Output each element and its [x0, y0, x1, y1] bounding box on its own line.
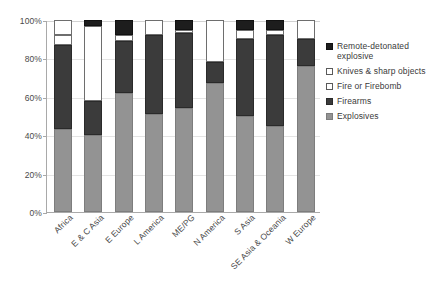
bar-segment[interactable]: [54, 129, 72, 212]
legend-item[interactable]: Remote-detonated explosive: [326, 41, 442, 61]
bar-segment[interactable]: [84, 101, 102, 136]
bar-segment[interactable]: [266, 30, 284, 36]
stacked-bar[interactable]: [54, 21, 72, 212]
legend-swatch-icon: [326, 43, 333, 50]
stacked-bar[interactable]: [84, 21, 102, 212]
legend-item[interactable]: Knives & sharp objects: [326, 66, 442, 76]
stacked-bar[interactable]: [236, 21, 254, 212]
bar-segment[interactable]: [175, 20, 193, 30]
legend-swatch-icon: [326, 113, 333, 120]
bar-segment[interactable]: [206, 62, 224, 83]
bar-segment[interactable]: [236, 39, 254, 116]
y-axis-tick-label: 80%: [25, 54, 42, 64]
bar-segment[interactable]: [54, 20, 72, 35]
legend-swatch-icon: [326, 83, 333, 90]
y-axis-tick-label: 60%: [25, 93, 42, 103]
bar-segment[interactable]: [145, 20, 163, 35]
bar-segment[interactable]: [266, 20, 284, 30]
bar-segment[interactable]: [266, 126, 284, 212]
bar-segment[interactable]: [115, 35, 133, 41]
bar-segment[interactable]: [236, 20, 254, 30]
y-axis-tick-label: 100%: [20, 16, 42, 26]
bars-layer: [48, 21, 320, 212]
bar-slot: [48, 21, 78, 212]
bar-slot: [139, 21, 169, 212]
bar-segment[interactable]: [115, 20, 133, 35]
legend-swatch-icon: [326, 98, 333, 105]
bar-slot: [260, 21, 290, 212]
bar-slot: [230, 21, 260, 212]
bar-segment[interactable]: [54, 45, 72, 129]
stacked-bar[interactable]: [115, 21, 133, 212]
legend-item[interactable]: Firearms: [326, 96, 442, 106]
bar-segment[interactable]: [175, 30, 193, 34]
bar-segment[interactable]: [84, 135, 102, 212]
bar-segment[interactable]: [54, 35, 72, 45]
legend-item-label: Firearms: [337, 96, 371, 106]
y-axis-tick-label: 0%: [30, 208, 43, 218]
stacked-bar[interactable]: [266, 21, 284, 212]
stacked-bar[interactable]: [206, 21, 224, 212]
bar-segment[interactable]: [297, 20, 315, 39]
bar-segment[interactable]: [266, 35, 284, 125]
y-axis-tick: [43, 98, 47, 99]
chart-legend: Remote-detonated explosiveKnives & sharp…: [326, 41, 442, 126]
x-axis-label-text: ME/PG: [169, 212, 196, 239]
y-axis-tick: [43, 21, 47, 22]
legend-item-label: Explosives: [337, 111, 379, 121]
plot-area: 0%20%40%60%80%100%: [46, 21, 320, 213]
y-axis-tick-label: 20%: [25, 170, 42, 180]
legend-swatch-icon: [326, 68, 333, 75]
bar-segment[interactable]: [84, 20, 102, 26]
legend-item-label: Fire or Firebomb: [337, 81, 401, 91]
stacked-bar-chart: 0%20%40%60%80%100% AfricaE & C AsiaE Eur…: [0, 0, 444, 301]
stacked-bar[interactable]: [145, 21, 163, 212]
bar-slot: [200, 21, 230, 212]
bar-segment[interactable]: [236, 30, 254, 40]
x-axis-labels: AfricaE & C AsiaE EuropeL AmericaME/PGN …: [46, 214, 320, 294]
legend-item[interactable]: Explosives: [326, 111, 442, 121]
y-axis-tick-label: 40%: [25, 131, 42, 141]
bar-segment[interactable]: [145, 35, 163, 114]
bar-segment[interactable]: [206, 83, 224, 212]
bar-segment[interactable]: [175, 33, 193, 108]
stacked-bar[interactable]: [175, 21, 193, 212]
y-axis-tick: [43, 136, 47, 137]
bar-slot: [169, 21, 199, 212]
bar-segment[interactable]: [206, 20, 224, 62]
bar-segment[interactable]: [115, 41, 133, 93]
y-axis-tick: [43, 59, 47, 60]
bar-slot: [78, 21, 108, 212]
y-axis-tick: [43, 175, 47, 176]
bar-slot: [109, 21, 139, 212]
bar-segment[interactable]: [84, 26, 102, 101]
x-axis-label-text: SE Asia & Oceania: [228, 212, 287, 271]
bar-segment[interactable]: [297, 39, 315, 66]
legend-item-label: Remote-detonated explosive: [337, 41, 442, 61]
legend-item-label: Knives & sharp objects: [337, 66, 426, 76]
x-axis-label-text: S Asia: [232, 212, 257, 237]
x-axis-label-text: Africa: [52, 212, 75, 235]
legend-item[interactable]: Fire or Firebomb: [326, 81, 442, 91]
